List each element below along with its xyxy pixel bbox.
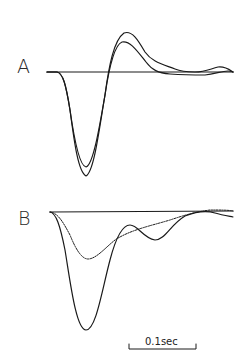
waveform-figure (0, 0, 252, 359)
panel-b-dashed-trace (50, 210, 233, 259)
panel-b-solid-trace (50, 212, 233, 330)
panel-a-trace-2 (47, 42, 233, 167)
scale-bar-label: 0.1sec (145, 336, 178, 347)
